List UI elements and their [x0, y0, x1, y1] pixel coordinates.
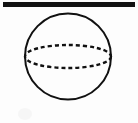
- figure-container: Sphere line drawing Black outline circle…: [0, 0, 138, 123]
- figure-background: [0, 0, 138, 123]
- scan-smudge: [18, 108, 32, 120]
- top-rule: [3, 2, 135, 7]
- sphere-figure: [0, 0, 138, 123]
